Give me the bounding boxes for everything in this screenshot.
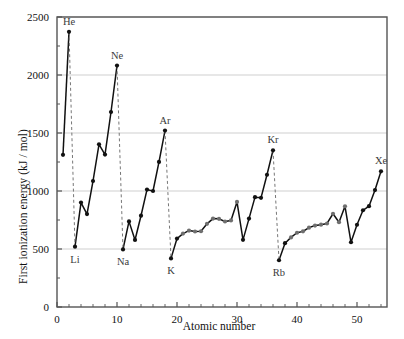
y-axis-tick-label: 0 [44,301,50,313]
data-point-marker [247,217,251,221]
plot-canvas: 0500100015002000250001020304050HeNeArKrX… [0,0,404,339]
data-point-marker [175,236,179,240]
annotation-label-Na: Na [117,256,130,267]
annotation-label-Li: Li [70,254,79,265]
dashed-drop-line [117,66,123,250]
data-point-marker [97,142,101,146]
data-point-marker [121,247,125,251]
data-line-segment [75,66,117,247]
annotation-label-Rb: Rb [273,267,285,278]
data-point-marker [325,221,329,225]
data-point-marker [349,240,353,244]
data-point-marker [217,217,221,221]
data-point-marker [277,258,281,262]
data-point-marker [307,226,311,230]
data-point-marker [295,231,299,235]
data-line-segment [171,150,273,258]
data-point-marker [319,223,323,227]
data-point-marker [79,201,83,205]
data-point-marker [73,245,77,249]
data-point-marker [109,110,113,114]
data-point-marker [283,241,287,245]
data-point-marker [259,196,263,200]
data-point-marker [127,219,131,223]
data-point-marker [367,204,371,208]
x-axis-title: Atomic number [183,320,256,332]
data-line-segment [63,32,69,155]
data-point-marker [163,128,167,132]
data-point-marker [229,218,233,222]
data-point-marker [301,229,305,233]
data-line-segment [123,131,165,250]
data-point-marker [103,152,107,156]
data-point-marker [205,222,209,226]
data-point-marker [235,200,239,204]
data-point-marker [199,229,203,233]
data-point-marker [361,208,365,212]
data-point-marker [67,30,71,34]
dashed-drop-line [273,150,279,260]
data-point-marker [241,238,245,242]
annotation-label-He: He [63,16,76,27]
x-axis-title-container: Atomic number [0,320,404,332]
data-point-marker [61,153,65,157]
data-point-marker [133,238,137,242]
ionization-energy-chart-figure: First ionization energy (kJ / mol) 05001… [0,0,404,339]
data-point-marker [115,64,119,68]
plot-frame [57,17,387,307]
annotation-label-Ar: Ar [159,115,171,126]
data-point-marker [289,235,293,239]
data-point-marker [313,223,317,227]
data-point-marker [151,189,155,193]
data-point-marker [145,188,149,192]
data-point-marker [355,223,359,227]
data-point-marker [85,212,89,216]
y-axis-tick-label: 2000 [27,69,50,81]
annotation-label-K: K [167,265,175,276]
data-point-marker [253,195,257,199]
data-point-marker [343,204,347,208]
data-point-marker [265,173,269,177]
data-point-marker [157,160,161,164]
annotation-label-Kr: Kr [267,134,279,145]
data-point-marker [91,179,95,183]
data-line-segment [279,171,381,260]
annotation-label-Ne: Ne [111,50,124,61]
dashed-drop-line [165,131,171,259]
data-point-marker [373,188,377,192]
data-point-marker [187,228,191,232]
y-axis-tick-label: 1500 [27,127,50,139]
data-point-marker [193,229,197,233]
annotation-label-Xe: Xe [375,155,388,166]
data-point-marker [379,169,383,173]
data-point-marker [169,256,173,260]
data-point-marker [331,212,335,216]
data-point-marker [271,148,275,152]
y-axis-tick-label: 2500 [27,11,50,23]
data-point-marker [181,231,185,235]
data-point-marker [211,217,215,221]
y-axis-tick-label: 1000 [27,185,50,197]
data-point-marker [223,219,227,223]
data-point-marker [139,214,143,218]
y-axis-tick-label: 500 [33,243,50,255]
data-point-marker [337,220,341,224]
dashed-drop-line [69,32,75,247]
